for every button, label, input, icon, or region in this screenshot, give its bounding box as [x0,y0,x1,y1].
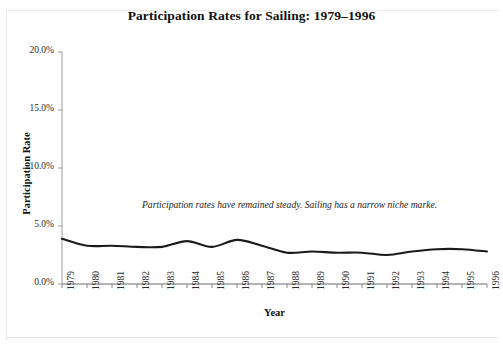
x-axis-title: Year [62,307,487,318]
chart-canvas [0,0,503,348]
chart-plot-area: Participation Rate Year 0.0%5.0%10.0%15.… [0,0,503,348]
x-tick-label: 1990 [341,271,351,290]
x-tick-label: 1984 [191,271,201,290]
x-tick-label: 1987 [266,271,276,290]
x-tick-label: 1992 [391,271,401,290]
x-tick-label: 1991 [366,271,376,290]
y-tick-label: 0.0% [8,277,54,287]
data-series-layer [62,239,487,255]
x-tick-label: 1983 [166,271,176,290]
page-footer-ghost-text [0,343,503,348]
x-tick-label: 1982 [141,271,151,290]
x-tick-label: 1993 [416,271,426,290]
chart-page: Participation Rates for Sailing: 1979–19… [0,0,503,348]
x-tick-label: 1986 [241,271,251,290]
x-tick-label: 1996 [491,271,501,290]
x-tick-label: 1988 [291,271,301,290]
x-tick-label: 1994 [441,271,451,290]
x-tick-label: 1985 [216,271,226,290]
x-tick-label: 1979 [66,271,76,290]
y-tick-label: 10.0% [8,161,54,171]
x-tick-label: 1981 [116,271,126,290]
chart-annotation: Participation rates have remained steady… [142,199,492,210]
y-tick-label: 20.0% [8,45,54,55]
y-tick-label: 5.0% [8,219,54,229]
x-tick-label: 1980 [91,271,101,290]
x-tick-label: 1989 [316,271,326,290]
y-tick-label: 15.0% [8,103,54,113]
axis-layer [58,52,487,288]
data-line-participation-rate [62,239,487,255]
x-tick-label: 1995 [466,271,476,290]
